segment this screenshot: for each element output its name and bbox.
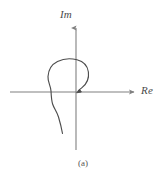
imaginary-axis-label: Im (60, 9, 72, 20)
figure-container: Im Re (a) (0, 0, 166, 182)
nyquist-curve (48, 59, 89, 134)
axes-group (10, 28, 134, 150)
nyquist-curve-group (48, 59, 89, 134)
real-axis-label: Re (141, 85, 153, 96)
curve-direction-arrowhead (77, 89, 82, 92)
figure-caption: (a) (0, 159, 166, 168)
